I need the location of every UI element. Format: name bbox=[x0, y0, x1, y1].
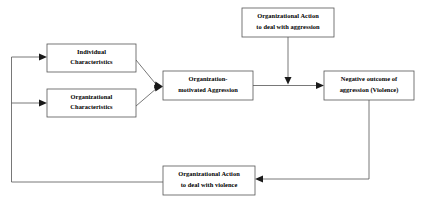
node-organization-motivated-aggression[interactable]: Organization- motivated Aggression bbox=[163, 71, 253, 100]
node-label-line1: Organizational Action bbox=[257, 12, 319, 19]
node-organizational-action-violence[interactable]: Organizational Action to deal with viole… bbox=[163, 166, 255, 195]
node-individual-characteristics[interactable]: Individual Characteristics bbox=[47, 44, 136, 72]
edge-organizational-to-aggression bbox=[136, 85, 163, 106]
node-organizational-action-aggression[interactable]: Organizational Action to deal with aggre… bbox=[242, 8, 334, 37]
node-label-line1: Negative outcome of bbox=[341, 75, 398, 82]
node-organizational-characteristics[interactable]: Organizational Characteristics bbox=[47, 89, 136, 117]
node-label-line2: to deal with aggression bbox=[256, 23, 320, 30]
edge-action-aggression-to-link bbox=[285, 37, 292, 85]
flowchart-svg: Individual Characteristics Organizationa… bbox=[0, 0, 421, 205]
node-label-line1: Organizational Action bbox=[178, 170, 240, 177]
node-label-line1: Individual bbox=[77, 48, 106, 55]
edge-individual-to-aggression bbox=[136, 60, 163, 89]
edge-action-violence-to-individual bbox=[12, 54, 164, 183]
edge-negative-outcome-to-action-violence bbox=[255, 100, 369, 183]
node-label-line2: Characteristics bbox=[70, 103, 113, 110]
node-label-line1: Organizational bbox=[71, 93, 113, 100]
node-negative-outcome-violence[interactable]: Negative outcome of aggression (Violence… bbox=[324, 71, 414, 100]
node-label-line2: to deal with violence bbox=[181, 181, 238, 188]
node-label-line1: Organization- bbox=[189, 75, 228, 82]
node-label-line2: motivated Aggression bbox=[178, 86, 238, 93]
node-label-line2: aggression (Violence) bbox=[340, 86, 399, 94]
node-label-line2: Characteristics bbox=[70, 58, 113, 65]
edge-action-violence-to-organizational bbox=[12, 100, 48, 107]
diagram-canvas: Individual Characteristics Organizationa… bbox=[0, 0, 421, 205]
